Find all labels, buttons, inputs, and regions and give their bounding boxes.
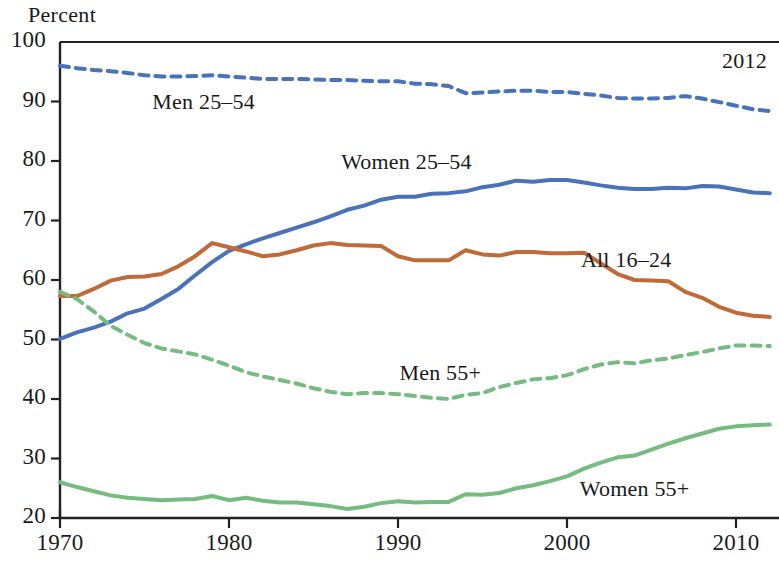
series-label-3: Men 55+ xyxy=(399,360,481,386)
series-label-2: All 16–24 xyxy=(581,247,671,273)
y-tick-label: 30 xyxy=(0,444,46,470)
y-tick-label: 80 xyxy=(0,146,46,172)
y-tick-label: 90 xyxy=(0,87,46,113)
end-year-annotation: 2012 xyxy=(722,48,767,74)
series-paths xyxy=(60,66,770,509)
x-tick-label: 2010 xyxy=(704,530,768,556)
x-tick-label: 1970 xyxy=(28,530,92,556)
series-label-0: Men 25–54 xyxy=(152,89,255,115)
x-tick-label: 1990 xyxy=(366,530,430,556)
y-tick-label: 50 xyxy=(0,325,46,351)
x-tick-label: 1980 xyxy=(197,530,261,556)
x-tick-label: 2000 xyxy=(535,530,599,556)
series-label-4: Women 55+ xyxy=(580,476,690,502)
y-tick-label: 40 xyxy=(0,384,46,410)
y-tick-label: 60 xyxy=(0,265,46,291)
labor-force-participation-chart: Percent 2030405060708090100 197019801990… xyxy=(0,0,779,563)
series-label-1: Women 25–54 xyxy=(341,149,472,175)
y-tick-label: 100 xyxy=(0,27,46,53)
y-tick-label: 20 xyxy=(0,503,46,529)
y-tick-label: 70 xyxy=(0,206,46,232)
